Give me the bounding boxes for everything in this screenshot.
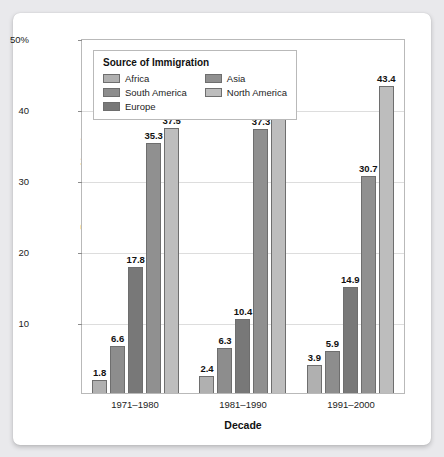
bar-chart-figure: Percentage of immigrants 1020304050% 1.8… (13, 13, 431, 445)
bar-value-label: 10.4 (234, 306, 253, 317)
bar-rect (128, 267, 143, 393)
bar-rect (92, 380, 107, 393)
y-tick-label: 10 (0, 317, 29, 328)
plot-area: 1.86.617.835.337.52.46.310.437.343.03.95… (81, 39, 405, 394)
bar-north-america[interactable]: 43.4 (379, 40, 394, 393)
legend-item-asia[interactable]: Asia (205, 73, 287, 84)
y-tick-label: 50% (0, 33, 29, 44)
bar-value-label: 14.9 (341, 274, 360, 285)
legend-swatch-icon (103, 88, 120, 97)
legend: Source of Immigration AfricaAsiaSouth Am… (93, 50, 297, 120)
bar-value-label: 30.7 (359, 163, 378, 174)
legend-item-north-america[interactable]: North America (205, 87, 287, 98)
bar-rect (361, 176, 376, 393)
legend-item-label: Asia (227, 73, 245, 84)
legend-item-label: North America (227, 87, 287, 98)
bar-rect (271, 89, 286, 393)
chart-card: Percentage of immigrants 1020304050% 1.8… (13, 13, 431, 445)
legend-swatch-icon (103, 102, 120, 111)
legend-swatch-icon (205, 88, 222, 97)
bar-value-label: 35.3 (144, 130, 163, 141)
legend-items: AfricaAsiaSouth AmericaNorth AmericaEuro… (103, 73, 287, 112)
bar-value-label: 43.4 (377, 73, 396, 84)
x-axis-label: Decade (81, 419, 405, 431)
legend-item-label: Europe (125, 101, 156, 112)
bar-value-label: 6.6 (111, 333, 124, 344)
legend-item-africa[interactable]: Africa (103, 73, 187, 84)
bar-rect (235, 319, 250, 392)
bar-rect (146, 143, 161, 392)
legend-item-europe[interactable]: Europe (103, 101, 187, 112)
bar-rect (110, 346, 125, 393)
bar-rect (307, 365, 322, 393)
bar-value-label: 17.8 (126, 254, 145, 265)
bar-value-label: 5.9 (326, 338, 339, 349)
bar-africa[interactable]: 3.9 (307, 40, 322, 393)
bar-europe[interactable]: 14.9 (343, 40, 358, 393)
bar-south-america[interactable]: 5.9 (325, 40, 340, 393)
bar-group: 3.95.914.930.743.4 (297, 40, 404, 393)
legend-swatch-icon (103, 74, 120, 83)
bar-value-label: 2.4 (200, 363, 213, 374)
bar-rect (199, 376, 214, 393)
x-tick-label: 1981–1990 (189, 399, 297, 410)
bar-value-label: 6.3 (218, 335, 231, 346)
y-tick-label: 40 (0, 104, 29, 115)
y-tick-label: 30 (0, 175, 29, 186)
bar-rect (217, 348, 232, 392)
bar-rect (343, 287, 358, 392)
bar-rect (325, 351, 340, 393)
legend-item-label: South America (125, 87, 187, 98)
legend-item-south-america[interactable]: South America (103, 87, 187, 98)
bar-value-label: 3.9 (308, 352, 321, 363)
y-tick-label: 20 (0, 246, 29, 257)
x-tick-label: 1971–1980 (81, 399, 189, 410)
x-tick-label: 1991–2000 (297, 399, 405, 410)
legend-swatch-icon (205, 74, 222, 83)
bar-rect (253, 129, 268, 392)
bar-rect (164, 128, 179, 393)
legend-item-label: Africa (125, 73, 149, 84)
bar-asia[interactable]: 30.7 (361, 40, 376, 393)
legend-title: Source of Immigration (103, 57, 287, 68)
bar-value-label: 1.8 (93, 367, 106, 378)
bar-rect (379, 86, 394, 392)
